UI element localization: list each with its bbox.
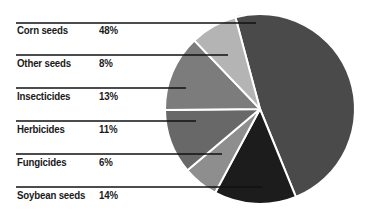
label-name: Herbicides bbox=[17, 123, 65, 135]
pie-slices bbox=[165, 14, 355, 204]
label-percent: 8% bbox=[99, 57, 113, 69]
label-percent: 6% bbox=[99, 156, 113, 168]
label-name: Other seeds bbox=[17, 57, 71, 69]
label-name: Corn seeds bbox=[17, 24, 68, 36]
label-name: Insecticides bbox=[17, 90, 70, 102]
label-name: Fungicides bbox=[17, 156, 66, 168]
label-percent: 14% bbox=[99, 189, 118, 201]
label-percent: 13% bbox=[99, 90, 118, 102]
label-name: Soybean seeds bbox=[17, 189, 85, 201]
label-percent: 48% bbox=[99, 24, 118, 36]
label-percent: 11% bbox=[99, 123, 117, 135]
